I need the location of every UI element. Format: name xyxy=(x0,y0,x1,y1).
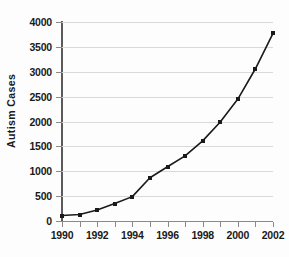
x-tick-label: 1996 xyxy=(148,230,188,241)
data-point-marker xyxy=(271,31,275,35)
y-tick-mark xyxy=(56,171,62,172)
data-point-marker xyxy=(95,208,99,212)
data-point-marker xyxy=(78,213,82,217)
data-point-marker xyxy=(236,97,240,101)
y-tick-label: 3000 xyxy=(12,67,52,78)
x-tick-mark xyxy=(255,222,256,227)
gridline-y xyxy=(62,72,273,73)
gridline-y xyxy=(62,22,273,23)
data-point-marker xyxy=(148,176,152,180)
chart-container: Autism Cases 050010001500200025003000350… xyxy=(0,0,289,257)
y-tick-label: 500 xyxy=(12,191,52,202)
data-point-marker xyxy=(253,67,257,71)
plot-area xyxy=(62,22,273,221)
x-tick-mark xyxy=(168,222,169,227)
gridline-y xyxy=(62,171,273,172)
y-tick-label: 3500 xyxy=(12,42,52,53)
x-tick-mark xyxy=(203,222,204,227)
y-tick-mark xyxy=(56,72,62,73)
x-tick-mark xyxy=(220,222,221,227)
data-point-marker xyxy=(201,139,205,143)
y-tick-mark xyxy=(56,22,62,23)
data-point-marker xyxy=(60,214,64,218)
gridline-y xyxy=(62,146,273,147)
y-tick-mark xyxy=(56,196,62,197)
data-point-marker xyxy=(183,154,187,158)
y-tick-mark xyxy=(56,122,62,123)
x-tick-mark xyxy=(132,222,133,227)
data-point-marker xyxy=(130,195,134,199)
x-tick-label: 1990 xyxy=(42,230,82,241)
y-tick-mark xyxy=(56,47,62,48)
gridline-y xyxy=(62,196,273,197)
x-tick-mark xyxy=(115,222,116,227)
x-tick-label: 1992 xyxy=(77,230,117,241)
data-point-marker xyxy=(218,120,222,124)
y-tick-label: 4000 xyxy=(12,17,52,28)
data-point-marker xyxy=(113,202,117,206)
x-tick-mark xyxy=(273,222,274,227)
x-tick-mark xyxy=(97,222,98,227)
x-tick-label: 2000 xyxy=(218,230,258,241)
x-tick-mark xyxy=(150,222,151,227)
x-tick-label: 1994 xyxy=(112,230,152,241)
y-tick-label: 1500 xyxy=(12,141,52,152)
data-point-marker xyxy=(166,165,170,169)
x-tick-mark xyxy=(80,222,81,227)
y-axis-title: Autism Cases xyxy=(2,0,20,221)
gridline-y xyxy=(62,47,273,48)
x-tick-mark xyxy=(238,222,239,227)
x-tick-mark xyxy=(185,222,186,227)
x-tick-mark xyxy=(62,222,63,227)
y-tick-label: 1000 xyxy=(12,166,52,177)
gridline-y xyxy=(62,97,273,98)
y-tick-label: 0 xyxy=(12,216,52,227)
y-tick-mark xyxy=(56,97,62,98)
y-tick-label: 2000 xyxy=(12,117,52,128)
y-tick-mark xyxy=(56,146,62,147)
x-tick-label: 1998 xyxy=(183,230,223,241)
gridline-y xyxy=(62,122,273,123)
x-tick-label: 2002 xyxy=(253,230,289,241)
y-tick-label: 2500 xyxy=(12,92,52,103)
